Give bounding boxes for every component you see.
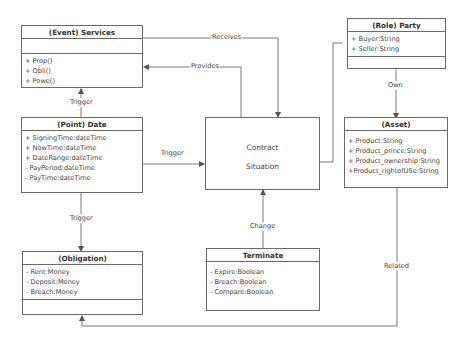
attribute: + Product_prince:String (348, 146, 444, 156)
class-title: Terminate (207, 249, 319, 262)
change-label: Change (249, 222, 276, 231)
attribute: + Buyer:String (351, 34, 442, 44)
class-terminate[interactable]: Terminate - Expire:Boolean - Breach:Bool… (206, 248, 320, 311)
attribute: + Product_ownership:String (348, 156, 444, 166)
party-contract-connector (319, 43, 343, 162)
attribute: + NowTime:dateTime (25, 143, 139, 153)
attributes-section: + Product:String + Product_prince:String… (345, 131, 447, 178)
attributes-section: - Rent:Money - Deposit:Money - Breach:Mo… (23, 265, 142, 300)
attributes-section (22, 39, 142, 54)
attributes-section: + Buyer:String + Seller:String (348, 32, 445, 57)
provides-label: Provides (190, 62, 220, 71)
receives-label: Receives (211, 33, 242, 42)
attribute: - Breach:Money (26, 287, 139, 297)
operation: + Obli() (25, 66, 139, 76)
attribute: - PayTime:dateTime (25, 173, 139, 183)
attribute: + SigningTime:dateTime (25, 133, 139, 143)
class-services[interactable]: (Event) Services + Prop() + Obli() + Pow… (21, 25, 143, 88)
attributes-section: + SigningTime:dateTime + NowTime:dateTim… (22, 131, 142, 185)
receives-connector (142, 38, 278, 117)
class-date[interactable]: (Point) Date + SigningTime:dateTime + No… (21, 117, 143, 193)
attribute: + Seller:String (351, 44, 442, 54)
operation: + Powe() (25, 76, 139, 86)
attribute: + DateRange:dateTime (25, 153, 139, 163)
class-obligation[interactable]: (Obligation) - Rent:Money - Deposit:Mone… (22, 251, 143, 315)
own-label: Own (387, 81, 404, 90)
attribute: - Breach:Boolean (210, 277, 316, 287)
related-label: Related (383, 262, 410, 271)
attributes-section: - Expire:Boolean - Breach:Boolean - Comp… (207, 262, 319, 299)
trigger-contract-label: Trigger (160, 149, 185, 158)
attribute: - Deposit:Money (26, 277, 139, 287)
trigger-obligation-label: Trigger (69, 214, 94, 223)
operations-section (348, 57, 445, 71)
contract-situation-box[interactable]: Contract Situation (205, 117, 320, 190)
attribute: +Product_rightofUSe:String (348, 166, 444, 176)
attribute: - Expire:Boolean (210, 267, 316, 277)
attribute: - Compare:Boolean (210, 287, 316, 297)
contract-label-line2: Situation (246, 162, 279, 171)
class-party[interactable]: (Role) Party + Buyer:String + Seller:Str… (347, 18, 446, 69)
operation: + Prop() (25, 56, 139, 66)
class-asset[interactable]: (Asset) + Product:String + Product_princ… (344, 117, 448, 188)
operations-section: + Prop() + Obli() + Powe() (22, 54, 142, 88)
class-title: (Asset) (345, 118, 447, 131)
trigger-services-label: Trigger (69, 98, 94, 107)
operations-section (23, 300, 142, 314)
attribute: - Rent:Money (26, 267, 139, 277)
provides-connector (144, 67, 241, 117)
class-title: (Point) Date (22, 118, 142, 131)
class-title: (Role) Party (348, 19, 445, 32)
class-title: (Obligation) (23, 252, 142, 265)
attribute: - PayPeriod:dateTime (25, 163, 139, 173)
attribute: + Product:String (348, 136, 444, 146)
class-title: (Event) Services (22, 26, 142, 39)
contract-label-line1: Contract (247, 143, 279, 152)
